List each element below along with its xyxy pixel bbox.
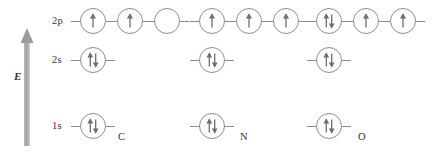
orbital-2p-n-1 xyxy=(199,8,225,34)
orbital-2p-o-3 xyxy=(390,8,416,34)
orbital-line-connector xyxy=(379,21,390,22)
orbital-line-lead xyxy=(71,60,80,61)
orbital-energy-diagram: E 2p 2s 1s C N O xyxy=(0,0,438,154)
orbital-line-connector xyxy=(342,21,353,22)
shell-row-2p: 2p xyxy=(0,8,438,36)
shell-row-1s: 1s xyxy=(0,113,438,141)
orbital-line-lead xyxy=(307,21,316,22)
orbital-1s-c-1 xyxy=(80,113,106,139)
orbital-line-tail xyxy=(225,60,234,61)
orbital-2s-c-1 xyxy=(80,47,106,73)
atom-label-o: O xyxy=(358,131,366,142)
orbital-line-lead xyxy=(307,126,316,127)
orbital-2p-c-1 xyxy=(80,8,106,34)
orbital-line-lead xyxy=(307,60,316,61)
shell-label-1s: 1s xyxy=(52,120,62,131)
orbital-line-lead xyxy=(190,60,199,61)
atom-label-n: N xyxy=(240,131,248,142)
orbital-line-lead xyxy=(190,126,199,127)
orbital-line-connector xyxy=(262,21,273,22)
orbital-line-lead xyxy=(71,126,80,127)
shell-label-2p: 2p xyxy=(52,15,63,26)
shell-row-2s: 2s xyxy=(0,47,438,75)
orbital-2p-o-2 xyxy=(353,8,379,34)
orbital-1s-n-1 xyxy=(199,113,225,139)
atom-label-c: C xyxy=(118,131,125,142)
orbital-1s-o-1 xyxy=(316,113,342,139)
orbital-line-lead xyxy=(190,21,199,22)
orbital-2p-n-3 xyxy=(273,8,299,34)
orbital-2p-n-2 xyxy=(236,8,262,34)
orbital-group-2s-c xyxy=(71,47,115,73)
orbital-group-2s-n xyxy=(190,47,234,73)
orbital-group-1s-n xyxy=(190,113,234,139)
orbital-line-tail xyxy=(225,126,234,127)
orbital-line-tail xyxy=(180,21,189,22)
orbital-line-connector xyxy=(106,21,117,22)
orbital-line-tail xyxy=(106,60,115,61)
orbital-line-lead xyxy=(71,21,80,22)
orbital-2p-o-1 xyxy=(316,8,342,34)
orbital-2p-c-2 xyxy=(117,8,143,34)
orbital-line-connector xyxy=(143,21,154,22)
orbital-2s-o-1 xyxy=(316,47,342,73)
orbital-group-2p-o xyxy=(307,8,425,34)
orbital-group-2p-c xyxy=(71,8,189,34)
orbital-group-2p-n xyxy=(190,8,308,34)
orbital-line-tail xyxy=(106,126,115,127)
shell-label-2s: 2s xyxy=(52,54,62,65)
orbital-2p-c-3 xyxy=(154,8,180,34)
orbital-group-1s-c xyxy=(71,113,115,139)
orbital-line-tail xyxy=(342,60,351,61)
orbital-group-2s-o xyxy=(307,47,351,73)
orbital-line-tail xyxy=(416,21,425,22)
orbital-group-1s-o xyxy=(307,113,351,139)
orbital-2s-n-1 xyxy=(199,47,225,73)
orbital-line-tail xyxy=(342,126,351,127)
orbital-line-connector xyxy=(225,21,236,22)
